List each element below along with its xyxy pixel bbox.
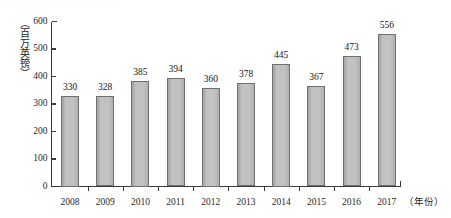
bar-value-label: 394	[159, 65, 193, 75]
bar-value-label: 385	[123, 68, 157, 78]
bar	[202, 88, 220, 187]
bar	[378, 34, 396, 187]
bar	[343, 56, 361, 186]
x-axis-unit-label: （年份）	[404, 198, 444, 208]
y-axis-tick-label: 600	[22, 17, 48, 27]
x-axis-tick-label: 2013	[229, 198, 263, 208]
bar-value-label: 378	[229, 70, 263, 80]
y-axis-tick-label: 0	[22, 182, 48, 192]
bar-chart: · · · ·· · · ·· · · ·· · · （百万英镑） 010020…	[0, 0, 451, 218]
x-axis-tick-label: 2008	[53, 198, 87, 208]
y-axis-tick-label: 300	[22, 99, 48, 109]
bar	[61, 96, 79, 187]
bar-value-label: 556	[370, 21, 404, 31]
x-axis-tick-label: 2017	[370, 198, 404, 208]
bar	[237, 83, 255, 187]
bar-value-label: 360	[194, 75, 228, 85]
bar-value-label: 473	[335, 43, 369, 53]
bar-value-label: 367	[299, 73, 333, 83]
bar-value-label: 330	[53, 83, 87, 93]
x-axis-tick-label: 2015	[299, 198, 333, 208]
bar	[272, 64, 290, 186]
x-axis-tick-label: 2010	[123, 198, 157, 208]
y-axis-tick-label: 500	[22, 44, 48, 54]
bar	[307, 86, 325, 187]
x-axis-tick-label: 2009	[88, 198, 122, 208]
bar-value-label: 328	[88, 83, 122, 93]
x-axis-tick-label: 2011	[159, 198, 193, 208]
bar	[131, 81, 149, 187]
x-axis-tick-label: 2012	[194, 198, 228, 208]
y-axis-tick-label: 400	[22, 72, 48, 82]
x-axis-tick-label: 2014	[264, 198, 298, 208]
x-axis-tick-label: 2016	[335, 198, 369, 208]
bar-value-label: 445	[264, 51, 298, 61]
y-axis-tick-label: 100	[22, 154, 48, 164]
bar	[96, 96, 114, 186]
bar	[167, 78, 185, 186]
y-axis-tick-label: 200	[22, 127, 48, 137]
